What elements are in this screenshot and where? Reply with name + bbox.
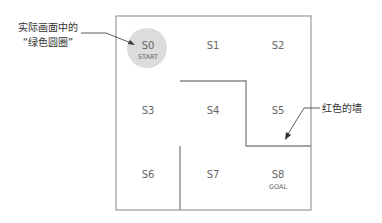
cell-label-s4: S4 xyxy=(207,105,220,116)
cell-label-s3: S3 xyxy=(142,105,155,116)
annotation-circle-line1: 实际画面中的 xyxy=(18,21,78,33)
cell-sub-start: START xyxy=(138,53,158,61)
annotation-wall-leader xyxy=(288,108,320,134)
cell-label-s1: S1 xyxy=(207,40,220,51)
cell-label-s6: S6 xyxy=(142,169,155,180)
maze-diagram: S0 START S1 S2 S3 S4 S5 S6 S7 S8 GOAL 实际… xyxy=(0,0,382,223)
cell-label-s7: S7 xyxy=(207,169,220,180)
cell-label-s2: S2 xyxy=(272,40,285,51)
cell-label-s5: S5 xyxy=(272,105,285,116)
wall-upper xyxy=(180,81,311,146)
cell-sub-goal: GOAL xyxy=(269,183,287,191)
cell-label-s0: S0 xyxy=(142,40,155,51)
cell-label-s8: S8 xyxy=(272,169,285,180)
annotation-circle-line2: “绿色圆圈” xyxy=(23,36,73,48)
annotation-circle-leader xyxy=(81,33,131,43)
annotation-wall: 红色的墙 xyxy=(322,102,362,114)
arrow-head-icon xyxy=(285,132,291,140)
